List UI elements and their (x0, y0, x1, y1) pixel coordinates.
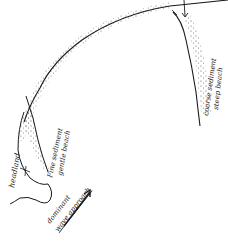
diagram-svg: headland Fine sediment gentle beach coar… (0, 0, 228, 243)
coastal-diagram: headland Fine sediment gentle beach coar… (0, 0, 228, 243)
arrow-tick-top (182, 0, 188, 17)
label-headland: headland (7, 152, 22, 188)
sediment-band-main (16, 2, 170, 142)
